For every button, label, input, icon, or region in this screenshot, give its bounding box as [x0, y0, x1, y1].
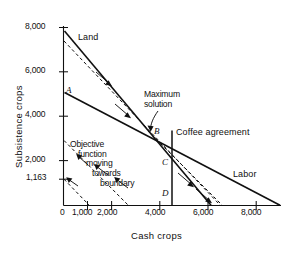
y-tick-label-8000: 8,000 — [25, 22, 45, 31]
annotation-objective-line5: boundary — [100, 179, 134, 189]
point-label-d: D — [162, 189, 169, 199]
y-tick-label-2000: 2,000 — [25, 155, 45, 164]
y-tick-label-4000: 4,000 — [25, 110, 45, 119]
annotation-maximum-solution: Maximum solution — [144, 90, 180, 109]
x-tick-label-0: 0 — [60, 208, 65, 217]
figure-container: Subsistence crops 8,000 6,000 4,000 2,00… — [0, 0, 288, 253]
x-tick-label-2000: 2,000 — [97, 208, 117, 217]
point-label-a: A — [66, 86, 72, 96]
point-label-c: C — [162, 158, 168, 168]
series-label-land: Land — [78, 33, 98, 43]
x-axis-title: Cash crops — [131, 231, 182, 241]
point-label-b: B — [154, 127, 160, 137]
x-tick-label-1000: 1,000 — [72, 208, 92, 217]
annotation-maximum-solution-line2: solution — [144, 100, 180, 110]
x-tick-label-8000: 8,000 — [241, 208, 261, 217]
y-tick-label-1163: 1,163 — [26, 173, 46, 182]
y-tick-label-6000: 6,000 — [25, 66, 45, 75]
y-axis-title: Subsistence crops — [14, 85, 24, 168]
annotation-objective-function: Objective function moving towards bounda… — [70, 140, 134, 188]
x-tick-label-6000: 6,000 — [193, 208, 213, 217]
series-label-coffee-agreement: Coffee agreement — [176, 128, 249, 138]
x-tick-label-4000: 4,000 — [145, 208, 165, 217]
series-label-labor: Labor — [233, 170, 257, 180]
